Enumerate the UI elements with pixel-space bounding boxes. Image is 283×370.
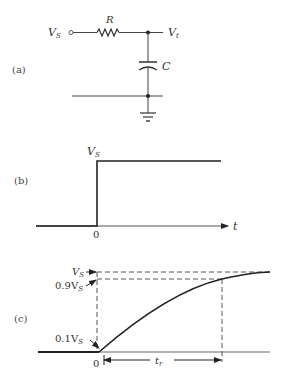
v90-level-label: 0.9VS xyxy=(55,280,83,293)
rise-time-label: tr xyxy=(155,355,163,368)
panel-a-label: (a) xyxy=(12,64,26,75)
vs-level-label: VS xyxy=(72,266,84,279)
panel-c-rc-response: (c) VS 0.9VS 0.1VS 0 tr xyxy=(14,266,270,369)
panel-a-circuit: (a) VS R Vt C xyxy=(12,14,179,121)
capacitor-label: C xyxy=(162,60,171,73)
panel-c-label: (c) xyxy=(14,313,28,324)
node-dot xyxy=(146,94,150,98)
v90-pointer-arrow xyxy=(86,280,96,286)
source-terminal-icon xyxy=(69,31,73,35)
step-waveform xyxy=(36,161,221,226)
response-curve xyxy=(99,272,270,352)
panel-b-label: (b) xyxy=(14,175,28,186)
time-axis-label: t xyxy=(233,220,238,233)
v10-pointer-arrow xyxy=(90,340,99,348)
response-zero-label: 0 xyxy=(93,358,99,369)
resistor-label: R xyxy=(105,14,114,25)
output-voltage-label: Vt xyxy=(168,26,179,40)
source-voltage-label: VS xyxy=(48,26,61,40)
resistor-icon xyxy=(97,29,119,36)
panel-b-step-input: (b) VS 0 t xyxy=(14,145,238,240)
step-level-label: VS xyxy=(87,145,100,159)
v10-level-label: 0.1VS xyxy=(55,333,83,346)
rc-rise-time-figure: (a) VS R Vt C (b) VS 0 t (c) xyxy=(0,0,283,370)
step-zero-label: 0 xyxy=(93,229,99,240)
